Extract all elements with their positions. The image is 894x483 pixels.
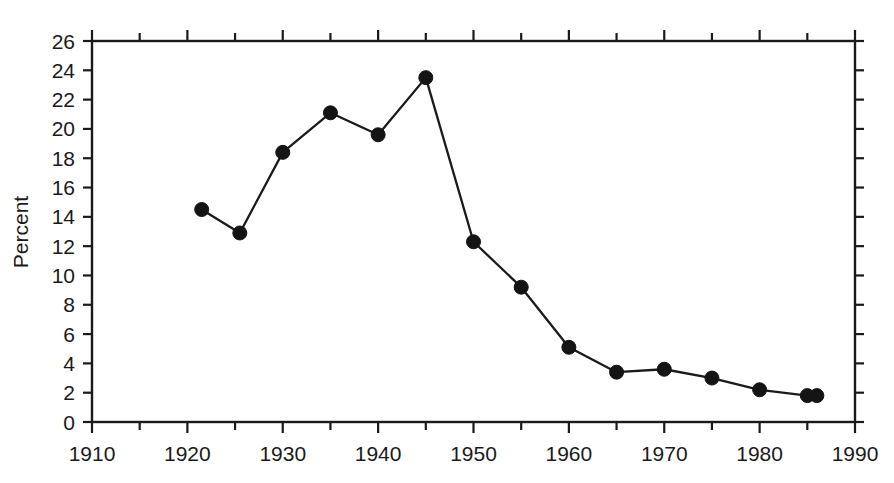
data-series-group — [195, 71, 824, 403]
data-point — [810, 389, 824, 403]
data-point — [562, 340, 576, 354]
y-axis-ticks-right — [855, 41, 864, 422]
data-point — [323, 106, 337, 120]
y-tick-label-8: 8 — [63, 293, 75, 316]
x-axis-ticks — [92, 422, 855, 433]
y-axis-ticks — [83, 41, 92, 422]
x-tick-label-1920: 1920 — [164, 442, 211, 465]
data-point — [705, 371, 719, 385]
data-point — [371, 128, 385, 142]
x-axis-tick-labels: 191019201930194019501960197019801990 — [69, 442, 879, 465]
y-tick-label-18: 18 — [52, 147, 75, 170]
y-axis-title: Percent — [9, 196, 32, 269]
data-point — [276, 145, 290, 159]
x-axis-ticks-top — [92, 30, 855, 41]
y-tick-label-20: 20 — [52, 117, 75, 140]
x-tick-label-1980: 1980 — [736, 442, 783, 465]
y-tick-label-2: 2 — [63, 381, 75, 404]
x-tick-label-1960: 1960 — [546, 442, 593, 465]
x-tick-label-1940: 1940 — [355, 442, 402, 465]
y-tick-label-26: 26 — [52, 30, 75, 53]
data-point — [195, 203, 209, 217]
y-tick-label-16: 16 — [52, 176, 75, 199]
x-tick-label-1990: 1990 — [832, 442, 879, 465]
data-point — [753, 383, 767, 397]
x-tick-label-1910: 1910 — [69, 442, 116, 465]
y-tick-label-6: 6 — [63, 323, 75, 346]
data-point — [610, 365, 624, 379]
data-point — [514, 280, 528, 294]
y-tick-label-22: 22 — [52, 88, 75, 111]
data-point — [233, 226, 247, 240]
y-tick-label-12: 12 — [52, 235, 75, 258]
y-tick-label-14: 14 — [52, 205, 76, 228]
series-markers-percent — [195, 71, 824, 403]
y-tick-label-4: 4 — [63, 352, 75, 375]
data-point — [467, 235, 481, 249]
series-line-percent — [202, 78, 817, 396]
plot-frame — [92, 41, 855, 422]
x-tick-label-1930: 1930 — [259, 442, 306, 465]
y-tick-label-24: 24 — [52, 59, 76, 82]
data-point — [419, 71, 433, 85]
x-tick-label-1950: 1950 — [450, 442, 497, 465]
line-chart: 02468101214161820222426 1910192019301940… — [0, 0, 894, 483]
y-tick-label-10: 10 — [52, 264, 75, 287]
chart-container: 02468101214161820222426 1910192019301940… — [0, 0, 894, 483]
data-point — [657, 362, 671, 376]
x-tick-label-1970: 1970 — [641, 442, 688, 465]
plot-area-border — [92, 41, 855, 422]
y-tick-label-0: 0 — [63, 411, 75, 434]
y-axis-tick-labels: 02468101214161820222426 — [52, 30, 76, 434]
